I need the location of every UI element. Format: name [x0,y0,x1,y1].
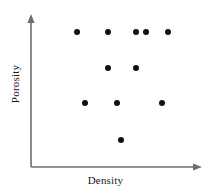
y-axis-label-container: Porosity [0,0,30,167]
data-point [133,29,139,35]
data-point [114,100,120,106]
axes-group [27,14,202,171]
data-point [133,65,139,71]
x-axis-label: Density [0,174,211,186]
scatter-plot-figure: Porosity Density [0,0,211,195]
data-point [143,29,149,35]
x-axis-arrowhead-icon [193,163,202,170]
chart-canvas [0,0,211,195]
data-point [74,29,80,35]
data-point [165,29,171,35]
scatter-points-group [74,29,171,143]
data-point [159,100,165,106]
data-point [105,65,111,71]
data-point [82,100,88,106]
data-point [118,137,124,143]
y-axis-label: Porosity [9,64,21,102]
data-point [105,29,111,35]
